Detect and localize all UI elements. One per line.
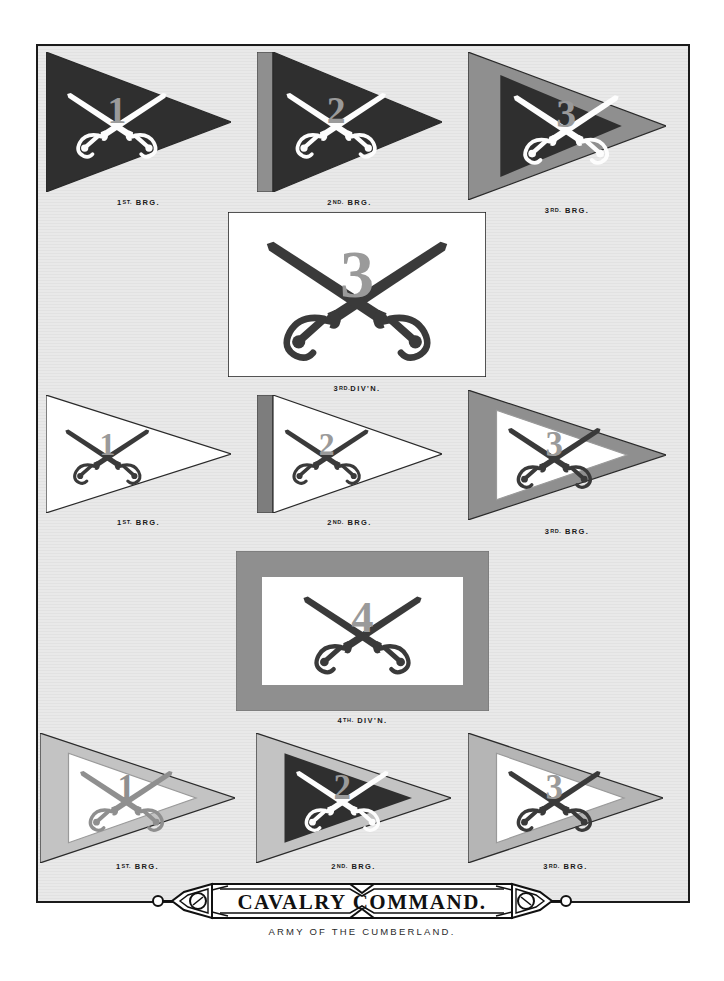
- flag-div4[interactable]: 4: [236, 551, 489, 711]
- caption-div3-brg2: 2ND. BRG.: [257, 198, 442, 207]
- flag-div3-brg2[interactable]: 2: [257, 52, 442, 192]
- caption-div4-brg3: 3RD. BRG.: [468, 527, 666, 536]
- flag-numeral: 1: [107, 89, 126, 131]
- flag-numeral: 2: [319, 427, 335, 462]
- flag-div3[interactable]: 3: [228, 212, 486, 377]
- flag-res-brg3[interactable]: 3: [468, 733, 663, 863]
- flag-div4-brg3[interactable]: 3: [468, 390, 666, 520]
- caption-div3-brg3: 3RD. BRG.: [468, 206, 666, 215]
- plate-title: CAVALRY COMMAND.: [237, 890, 486, 914]
- caption-div3: 3RD.DIV'N.: [228, 384, 486, 393]
- title-banner: CAVALRY COMMAND.: [150, 878, 574, 924]
- flag-numeral: 4: [351, 592, 373, 642]
- caption-res-brg3: 3RD. BRG.: [468, 862, 663, 871]
- flag-numeral: 3: [546, 425, 563, 464]
- caption-div3-brg1: 1ST. BRG.: [46, 198, 231, 207]
- caption-div4-brg2: 2ND. BRG.: [257, 518, 442, 527]
- caption-res-brg1: 1ST. BRG.: [40, 862, 235, 871]
- flag-res-brg2[interactable]: 2: [256, 733, 451, 863]
- caption-div4-brg1: 1ST. BRG.: [46, 518, 231, 527]
- caption-div4: 4TH. DIV'N.: [236, 716, 489, 725]
- flag-numeral: 2: [327, 89, 346, 131]
- flag-numeral: 1: [99, 427, 115, 462]
- flag-div3-brg3[interactable]: 3: [468, 52, 666, 200]
- flag-res-brg1[interactable]: 1: [40, 733, 235, 863]
- flag-div4-brg2[interactable]: 2: [257, 395, 442, 513]
- flag-numeral: 1: [118, 768, 135, 807]
- flag-numeral: 3: [546, 768, 563, 807]
- flag-div4-brg1[interactable]: 1: [46, 395, 231, 513]
- caption-res-brg2: 2ND. BRG.: [256, 862, 451, 871]
- plate-subtitle: ARMY OF THE CUMBERLAND.: [0, 926, 724, 937]
- flag-numeral: 2: [334, 768, 351, 807]
- flag-div3-brg1[interactable]: 1: [46, 52, 231, 192]
- flag-numeral: 3: [340, 236, 374, 312]
- banner-graphic: CAVALRY COMMAND.: [150, 878, 574, 924]
- flag-numeral: 3: [556, 92, 576, 136]
